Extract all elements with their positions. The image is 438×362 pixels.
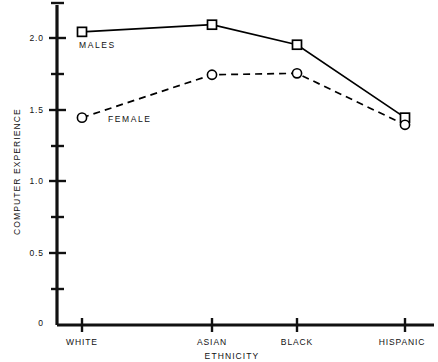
x-tick-label-asian: ASIAN — [172, 337, 252, 347]
x-tick-label-white: WHITE — [42, 337, 122, 347]
series-males-line — [82, 25, 405, 118]
y-tick-label-0-5: 0.5 — [8, 248, 44, 258]
chart-figure: 2.0 1.5 1.0 0.5 0 WHITE ASIAN BLACK HISP… — [0, 0, 438, 362]
y-tick-label-2: 2.0 — [8, 33, 44, 43]
line-chart-plot — [0, 0, 438, 362]
data-point-marker — [78, 27, 87, 36]
series-males — [78, 20, 410, 122]
y-tick-label-0: 0 — [8, 318, 44, 328]
x-axis-title: ETHNICITY — [172, 351, 292, 361]
x-tick-label-hispanic: HISPANIC — [362, 337, 438, 347]
y-axis-title: COMPUTER EXPERIENCE — [12, 108, 22, 235]
data-point-marker — [207, 70, 216, 79]
x-tick-label-black: BLACK — [257, 337, 337, 347]
data-point-marker — [208, 20, 217, 29]
series-label-female: FEMALE — [108, 114, 152, 124]
data-point-marker — [400, 120, 409, 129]
data-point-marker — [293, 40, 302, 49]
data-point-marker — [77, 113, 86, 122]
data-point-marker — [292, 69, 301, 78]
series-label-males: MALES — [79, 40, 116, 50]
